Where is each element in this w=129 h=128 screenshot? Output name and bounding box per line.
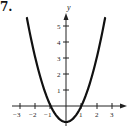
problem-number: 7. [0, 0, 13, 14]
y-tick-label: 2 [57, 71, 61, 79]
x-tick-label: 1 [79, 111, 83, 119]
y-tick-label: 4 [57, 39, 61, 47]
x-tick-label: −3 [13, 111, 21, 119]
y-tick-label: 3 [57, 55, 61, 63]
y-axis-arrow-icon [64, 13, 69, 20]
x-tick-labels: −3 −2 −1 1 2 3 [13, 111, 114, 119]
y-tick-label: 1 [57, 87, 61, 95]
graph-figure: 7. y −3 −2 −1 1 2 3 [0, 0, 129, 128]
x-tick-label: −2 [29, 111, 37, 119]
y-axis-label: y [66, 3, 71, 12]
y-tick-labels: 1 2 3 4 5 [57, 23, 61, 95]
plot-area: y −3 −2 −1 1 2 3 1 2 3 [0, 0, 129, 128]
x-tick-label: −1 [44, 111, 52, 119]
x-tick-label: 2 [95, 111, 99, 119]
x-tick-label: 3 [110, 111, 114, 119]
x-axis-arrow-icon [120, 104, 127, 109]
y-tick-label: 5 [57, 23, 61, 31]
